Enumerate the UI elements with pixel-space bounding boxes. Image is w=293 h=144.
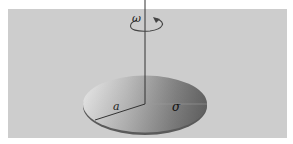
omega-label: ω xyxy=(132,13,141,24)
sigma-label: σ xyxy=(172,101,180,113)
radius-label: a xyxy=(113,101,120,112)
rotating-disk-diagram xyxy=(0,0,293,144)
